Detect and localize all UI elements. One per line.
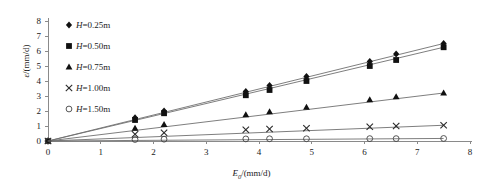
legend-item-label: H=0.75m [76,62,110,72]
y-tick-label: 6 [37,46,42,56]
y-tick-label: 0 [37,136,42,146]
square-marker-icon [304,78,310,84]
triangle-marker-icon [266,108,273,114]
legend-item-5: H=1.50m [62,98,158,119]
legend-item-label: H=0.50m [76,41,110,51]
square-marker-icon [441,44,447,50]
y-tick-label: 8 [37,16,42,26]
circle-marker-icon [62,103,76,115]
triangle-marker-icon [242,111,249,117]
triangle-marker-icon [66,63,73,69]
triangle-marker-icon [161,121,168,127]
square-marker-icon [367,63,373,69]
diamond-marker-icon [66,21,72,28]
x-tick-label: 1 [99,147,104,157]
triangle-marker-icon [440,89,447,95]
diamond-marker-icon [393,50,399,57]
y-tick-label: 4 [37,76,42,86]
cross-marker-icon [393,123,399,129]
x-tick-label: 5 [310,147,315,157]
cross-marker-icon [62,82,76,94]
x-tick-label: 6 [362,147,367,157]
cross-marker-icon [367,124,373,130]
triangle-marker-icon [303,104,310,110]
cross-marker-icon [161,130,167,136]
square-marker-icon [62,40,76,52]
x-axis-title: E0/(mm/d) [0,162,503,180]
circle-marker-icon [66,106,72,112]
y-tick-label: 2 [37,106,42,116]
x-tick-label: 7 [415,147,420,157]
x-tick-label: 3 [204,147,209,157]
triangle-marker-icon [393,93,400,99]
cross-marker-icon [66,84,72,90]
cross-marker-icon [243,127,249,133]
y-axis-title: ε/(mm/d) [15,31,33,91]
square-marker-icon [393,57,399,63]
legend-item-label: H=0.25m [76,20,110,30]
legend-item-label: H=1.00m [76,83,110,93]
legend-item-3: H=0.75m [62,56,158,77]
legend-item-4: H=1.00m [62,77,158,98]
square-marker-icon [267,87,273,93]
y-tick-label: 3 [37,91,42,101]
evaporation-scatter-chart: 012345678012345678 ε/(mm/d) E0/(mm/d) H=… [0,0,503,182]
legend-item-2: H=0.50m [62,35,158,56]
legend-item-label: H=1.50m [76,104,110,114]
x-tick-label: 2 [151,147,156,157]
chart-legend: H=0.25mH=0.50mH=0.75mH=1.00mH=1.50m [62,14,158,119]
series-h-1-50m [45,136,446,144]
square-marker-icon [66,43,72,49]
x-tick-label: 4 [257,147,262,157]
cross-marker-icon [266,126,272,132]
y-tick-label: 5 [37,61,42,71]
x-tick-label: 0 [46,147,51,157]
legend-item-1: H=0.25m [62,14,158,35]
triangle-marker-icon [62,61,76,73]
y-tick-label: 1 [37,121,42,131]
y-tick-label: 7 [37,31,42,41]
x-tick-label: 8 [468,147,473,157]
square-marker-icon [161,110,167,116]
square-marker-icon [243,92,249,98]
triangle-marker-icon [132,125,139,131]
triangle-marker-icon [366,96,373,102]
diamond-marker-icon [62,19,76,31]
